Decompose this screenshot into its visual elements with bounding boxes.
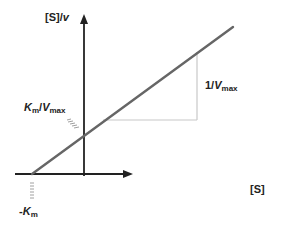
hanes-woolf-plot [0, 0, 281, 231]
x-axis-arrow-icon [123, 170, 133, 178]
x-axis-label: [S] [250, 184, 265, 195]
y-intercept-label: Km/Vmax [24, 102, 66, 115]
x-intercept-label: -Km [19, 206, 38, 219]
y-axis-label: [S]/v [45, 12, 69, 23]
x-intercept-marker [30, 183, 34, 198]
y-axis-arrow-icon [80, 14, 88, 24]
slope-label: 1/Vmax [205, 80, 238, 93]
linear-plot-line [32, 27, 233, 174]
y-axis [80, 14, 88, 176]
y-intercept-marker [67, 119, 79, 128]
